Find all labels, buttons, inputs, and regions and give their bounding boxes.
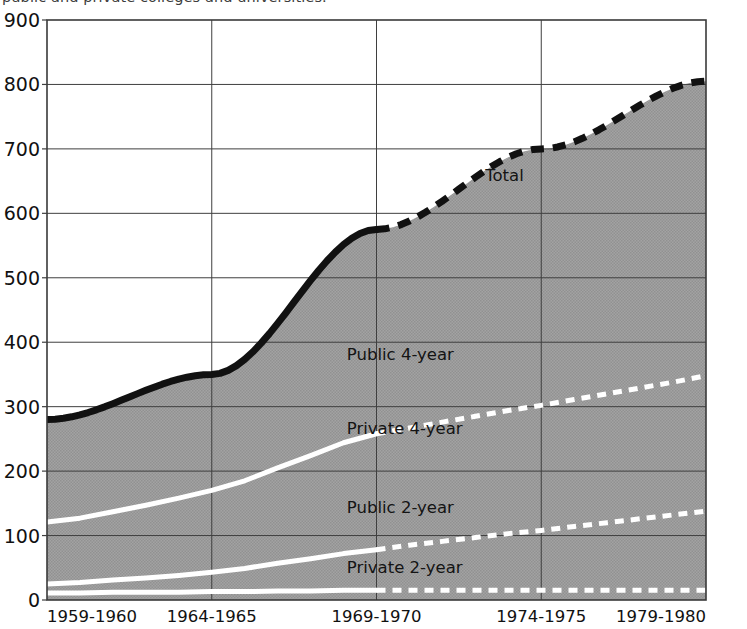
x-axis-tick-label: 1969-1970 bbox=[332, 607, 422, 626]
y-axis-tick-label: 100 bbox=[4, 525, 40, 547]
annotation-total: Total bbox=[484, 166, 524, 185]
stacked-area-chart: 0100200300400500600700800900 1959-196019… bbox=[0, 0, 747, 629]
y-axis-tick-label: 800 bbox=[4, 73, 40, 95]
y-axis-tick-label: 400 bbox=[4, 331, 40, 353]
x-axis-tick-label: 1979-1980 bbox=[616, 607, 706, 626]
x-axis-tick-label: 1974-1975 bbox=[496, 607, 586, 626]
y-axis-tick-label: 300 bbox=[4, 396, 40, 418]
y-axis-tick-label: 200 bbox=[4, 460, 40, 482]
chart-svg: 0100200300400500600700800900 1959-196019… bbox=[0, 0, 747, 629]
annotation-private-2-year: Private 2-year bbox=[347, 558, 463, 577]
series-boundary-solid bbox=[47, 590, 377, 593]
y-axis-tick-label: 0 bbox=[28, 589, 40, 611]
y-axis-tick-label: 500 bbox=[4, 267, 40, 289]
x-axis-tick-label: 1964-1965 bbox=[167, 607, 257, 626]
x-axis-tick-label: 1959-1960 bbox=[47, 607, 137, 626]
x-axis-tick-labels: 1959-19601964-19651969-19701974-19751979… bbox=[47, 607, 706, 626]
y-axis-tick-label: 600 bbox=[4, 202, 40, 224]
y-axis-tick-label: 700 bbox=[4, 138, 40, 160]
annotation-public-2-year: Public 2-year bbox=[347, 498, 454, 517]
figure: public and private colleges and universi… bbox=[0, 0, 747, 629]
annotation-private-4-year: Private 4-year bbox=[347, 419, 463, 438]
y-axis-tick-labels: 0100200300400500600700800900 bbox=[4, 9, 47, 611]
annotation-public-4-year: Public 4-year bbox=[347, 345, 454, 364]
y-axis-tick-label: 900 bbox=[4, 9, 40, 31]
